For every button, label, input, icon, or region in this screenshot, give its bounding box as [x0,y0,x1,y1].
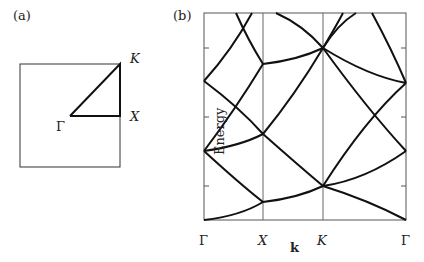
figure: (a) K X Γ (b) [0,0,424,262]
bands [204,13,406,220]
point-x-label: X [129,109,140,124]
y-axis-label: Energy [212,107,227,155]
x-axis-label: k [290,240,300,255]
point-gamma-label: Γ [56,119,65,134]
panel-a: (a) K X Γ [13,8,141,167]
point-k-label: K [129,51,141,66]
xtick-gamma-right: Γ [401,233,410,248]
irreducible-path [70,64,120,116]
xtick-gamma-left: Γ [199,233,208,248]
panel-b-label: (b) [173,8,191,23]
panel-b: (b) [173,8,410,255]
xtick-x: X [257,233,268,248]
panel-a-label: (a) [13,8,31,23]
xtick-k: K [316,233,328,248]
